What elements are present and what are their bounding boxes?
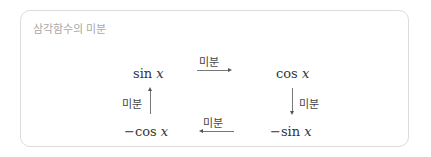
func-name: sin	[133, 66, 152, 81]
arrow-label-top: 미분	[199, 53, 219, 69]
arrow-left-icon	[199, 129, 203, 133]
node-neg-cos-x: −cos x	[124, 124, 168, 139]
func-name: −sin	[270, 124, 300, 139]
arrow-left-line	[201, 131, 234, 132]
panel-title: 삼각함수의 미분	[33, 20, 107, 36]
arrow-down-icon	[290, 111, 294, 115]
arrow-up-icon	[148, 87, 152, 91]
func-name: −cos	[124, 124, 157, 139]
arrow-down-line	[292, 88, 293, 113]
var-name: x	[302, 66, 309, 81]
arrow-up-line	[150, 89, 151, 114]
var-name: x	[156, 66, 163, 81]
func-name: cos	[276, 66, 298, 81]
arrow-label-bottom: 미분	[203, 114, 223, 130]
arrow-right-line	[197, 70, 230, 71]
derivative-cycle-panel: 삼각함수의 미분 sin x cos x −sin x −cos x 미분 미분…	[20, 10, 409, 147]
arrow-label-right: 미분	[299, 95, 319, 111]
var-name: x	[304, 124, 311, 139]
node-cos-x: cos x	[276, 66, 309, 81]
node-sin-x: sin x	[133, 66, 164, 81]
node-neg-sin-x: −sin x	[270, 124, 312, 139]
var-name: x	[161, 124, 168, 139]
arrow-right-icon	[228, 68, 232, 72]
arrow-label-left: 미분	[122, 95, 142, 111]
